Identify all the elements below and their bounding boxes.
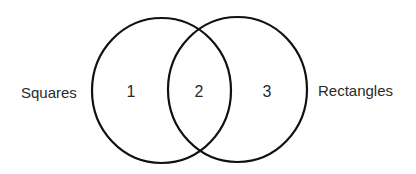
label-rectangles: Rectangles xyxy=(318,82,393,99)
region-1-label: 1 xyxy=(127,83,136,100)
region-3-label: 3 xyxy=(263,83,272,100)
circle-squares xyxy=(92,18,231,163)
circle-rectangles xyxy=(168,17,307,162)
label-squares: Squares xyxy=(21,84,77,101)
venn-diagram: Squares Rectangles 1 2 3 xyxy=(0,0,416,174)
region-2-label: 2 xyxy=(195,83,204,100)
